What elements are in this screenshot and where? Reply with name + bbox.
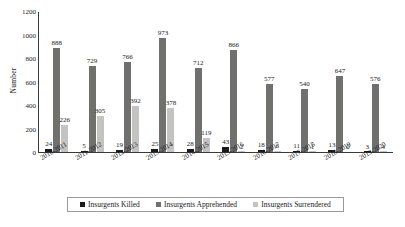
bar-value-label: 766: [122, 53, 133, 61]
bar-value-label: 540: [299, 80, 310, 88]
bar-rect: [309, 151, 316, 152]
x-axis-tick-cell: 2010-2011: [39, 153, 75, 195]
y-axis-tick: 400: [14, 103, 36, 110]
bar-rect: [266, 84, 273, 152]
x-axis-tick-cell: 2017-2018: [288, 153, 324, 195]
bar-value-label: 888: [51, 39, 62, 47]
bar-value-label: 712: [193, 59, 204, 67]
bar-rect: [380, 151, 387, 152]
bar-group: 185776: [251, 12, 286, 152]
legend-label: Insurgents Killed: [88, 200, 140, 209]
y-axis-tick: 600: [14, 79, 36, 86]
bar-group: 19766392: [110, 12, 145, 152]
bar-rect: [336, 76, 343, 152]
bar-value-label: 973: [158, 29, 169, 37]
bar-group: 28712119: [181, 12, 216, 152]
x-axis-tick-cell: 2016-2017: [252, 153, 288, 195]
bar-value-label: 647: [335, 67, 346, 75]
y-axis-tick-labels: 120010008006004002000: [14, 12, 36, 153]
plot-area: 120010008006004002000 248882265729305197…: [38, 12, 393, 153]
bar-group: 115401: [287, 12, 322, 152]
legend-swatch-icon: [80, 202, 85, 207]
legend-swatch-icon: [156, 202, 161, 207]
x-axis-tick-labels: 2010-20112011-20122012-20132013-20142014…: [39, 153, 394, 195]
bar-value-label: 226: [59, 116, 70, 124]
x-axis-tick-cell: 2019-2020: [359, 153, 395, 195]
y-axis-tick: 1000: [14, 32, 36, 39]
bar-rect: [372, 84, 379, 152]
bar-chart: Number 120010008006004002000 24888226572…: [0, 0, 405, 227]
x-axis-tick-cell: 2012-2013: [110, 153, 146, 195]
bar-groups: 2488822657293051976639225973378287121194…: [39, 12, 393, 152]
bar-rect: [195, 68, 202, 152]
bar-group: 25973378: [145, 12, 180, 152]
x-axis-tick-cell: 2011-2012: [75, 153, 111, 195]
bar-value-label: 305: [95, 107, 106, 115]
bar-group: 24888226: [39, 12, 74, 152]
bar-value-label: 577: [264, 75, 275, 83]
bar-rect: [124, 62, 131, 152]
y-axis-tick: 0: [14, 150, 36, 157]
bar-value-label: 119: [201, 129, 211, 137]
legend-item[interactable]: Insurgents Apprehended: [156, 200, 237, 209]
x-axis-tick-cell: 2018-2019: [323, 153, 359, 195]
legend-label: Insurgents Surrendered: [261, 200, 331, 209]
bar-value-label: 866: [228, 41, 239, 49]
bar-value-label: 43: [222, 138, 229, 146]
bar-rect: [159, 38, 166, 152]
x-axis-tick-cell: 2013-2014: [146, 153, 182, 195]
bar-value-label: 378: [166, 99, 177, 107]
bar-value-label: 576: [370, 75, 381, 83]
legend-item[interactable]: Insurgents Surrendered: [253, 200, 331, 209]
bar-group: 5729305: [74, 12, 109, 152]
bar-rect: [230, 50, 237, 152]
bar-group: 136470: [322, 12, 357, 152]
x-axis-tick-cell: 2014-2015: [181, 153, 217, 195]
chart-legend: Insurgents KilledInsurgents ApprehendedI…: [67, 197, 344, 212]
x-axis-tick-cell: 2015-2016: [217, 153, 253, 195]
bar-group: 35764: [358, 12, 393, 152]
y-axis-tick: 800: [14, 56, 36, 63]
legend-label: Insurgents Apprehended: [164, 200, 237, 209]
bar-value-label: 729: [87, 57, 98, 65]
legend-item[interactable]: Insurgents Killed: [80, 200, 140, 209]
bar-group: 438662: [216, 12, 251, 152]
bar-rect: [238, 151, 245, 152]
y-axis-tick: 200: [14, 126, 36, 133]
legend-swatch-icon: [253, 202, 258, 207]
bar-rect: [53, 48, 60, 152]
y-axis-tick: 1200: [14, 9, 36, 16]
bar-value-label: 392: [130, 97, 141, 105]
